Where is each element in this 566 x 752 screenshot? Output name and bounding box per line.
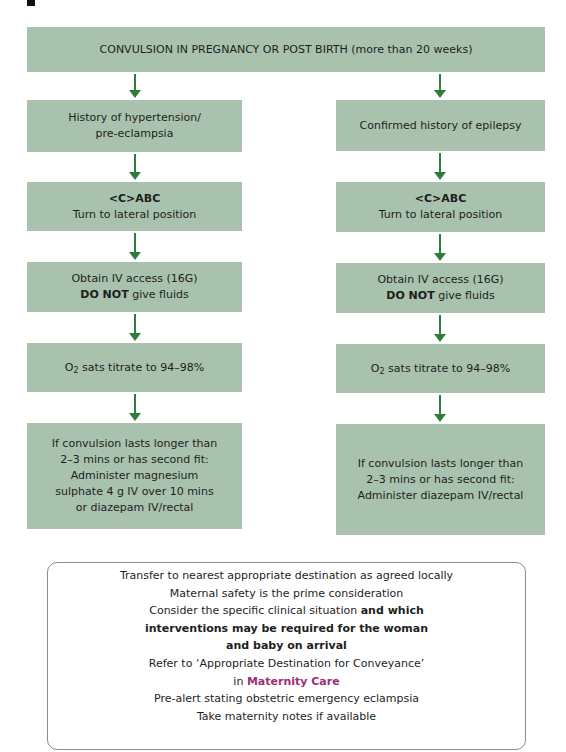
iv-line: Obtain IV access (16G) bbox=[377, 272, 503, 288]
o2-text: sats titrate to 94–98% bbox=[385, 362, 511, 375]
treatment-line: If convulsion lasts longer than bbox=[52, 436, 217, 452]
maternity-care-link[interactable]: Maternity Care bbox=[247, 675, 340, 688]
o2-text: O bbox=[65, 361, 74, 374]
title-text: CONVULSION IN PREGNANCY OR POST BIRTH (m… bbox=[100, 42, 473, 58]
o2-text: O bbox=[371, 362, 380, 375]
box-iv-right: Obtain IV access (16G) DO NOT give fluid… bbox=[336, 263, 545, 313]
box-epilepsy-history: Confirmed history of epilepsy bbox=[336, 100, 545, 151]
corner-mark bbox=[27, 0, 35, 6]
info-line: Consider the specific clinical situation bbox=[149, 604, 360, 617]
transfer-info-box: Transfer to nearest appropriate destinat… bbox=[47, 562, 526, 750]
arrow-down-icon bbox=[129, 394, 141, 421]
treatment-line: Administer diazepam IV/rectal bbox=[358, 488, 524, 504]
arrow-down-icon bbox=[434, 153, 446, 180]
box-abc-left: <C>ABC Turn to lateral position bbox=[27, 182, 242, 231]
arrow-down-icon bbox=[434, 74, 446, 98]
condition-line: History of hypertension/ bbox=[68, 110, 201, 126]
iv-line: Obtain IV access (16G) bbox=[71, 271, 197, 287]
treatment-line: If convulsion lasts longer than bbox=[358, 456, 523, 472]
arrow-down-icon bbox=[129, 314, 141, 341]
info-line: Refer to ‘Appropriate Destination for Co… bbox=[48, 655, 525, 673]
box-hypertension-history: History of hypertension/ pre-eclampsia bbox=[27, 100, 242, 152]
o2-text: sats titrate to 94–98% bbox=[79, 361, 205, 374]
info-line-bold: and baby on arrival bbox=[48, 637, 525, 655]
treatment-line: Administer magnesium bbox=[71, 468, 199, 484]
iv-rest: give fluids bbox=[129, 288, 189, 301]
box-convulsion-title: CONVULSION IN PREGNANCY OR POST BIRTH (m… bbox=[27, 27, 545, 72]
info-line: in bbox=[233, 675, 247, 688]
box-o2-left: O2 sats titrate to 94–98% bbox=[27, 343, 242, 392]
abc-text: Turn to lateral position bbox=[379, 207, 503, 223]
condition-line: pre-eclampsia bbox=[96, 126, 174, 142]
treatment-line: or diazepam IV/rectal bbox=[76, 500, 194, 516]
abc-label: <C>ABC bbox=[109, 191, 160, 207]
box-treatment-right: If convulsion lasts longer than 2–3 mins… bbox=[336, 424, 545, 535]
condition-line: Confirmed history of epilepsy bbox=[360, 118, 522, 134]
iv-warning: DO NOT bbox=[80, 288, 128, 301]
iv-rest: give fluids bbox=[435, 289, 495, 302]
treatment-line: 2–3 mins or has second fit: bbox=[60, 452, 208, 468]
arrow-down-icon bbox=[434, 234, 446, 261]
info-line-bold: interventions may be required for the wo… bbox=[48, 620, 525, 638]
arrow-down-icon bbox=[129, 74, 141, 98]
arrow-down-icon bbox=[434, 315, 446, 342]
info-line: Pre-alert stating obstetric emergency ec… bbox=[48, 690, 525, 708]
abc-text: Turn to lateral position bbox=[73, 207, 197, 223]
treatment-line: sulphate 4 g IV over 10 mins bbox=[55, 484, 213, 500]
box-abc-right: <C>ABC Turn to lateral position bbox=[336, 182, 545, 232]
info-line: Maternal safety is the prime considerati… bbox=[48, 585, 525, 603]
arrow-down-icon bbox=[434, 395, 446, 422]
box-treatment-left: If convulsion lasts longer than 2–3 mins… bbox=[27, 423, 242, 529]
info-line-bold: and which bbox=[361, 604, 424, 617]
box-iv-left: Obtain IV access (16G) DO NOT give fluid… bbox=[27, 262, 242, 312]
info-line: Transfer to nearest appropriate destinat… bbox=[48, 567, 525, 585]
box-o2-right: O2 sats titrate to 94–98% bbox=[336, 344, 545, 393]
iv-warning: DO NOT bbox=[386, 289, 434, 302]
info-line: Take maternity notes if available bbox=[48, 708, 525, 726]
abc-label: <C>ABC bbox=[415, 191, 466, 207]
treatment-line: 2–3 mins or has second fit: bbox=[366, 472, 514, 488]
arrow-down-icon bbox=[129, 154, 141, 180]
arrow-down-icon bbox=[129, 233, 141, 260]
